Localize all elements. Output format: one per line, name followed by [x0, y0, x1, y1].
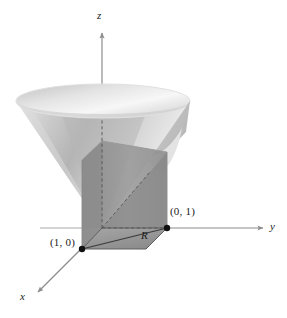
cone-region-diagram [0, 0, 287, 318]
dot-point-1-0 [79, 246, 85, 252]
axis-label-z: z [97, 9, 101, 21]
point-label-0-1: (0, 1) [170, 205, 195, 217]
dot-point-0-1 [164, 225, 170, 231]
region-label-R: R [141, 229, 148, 241]
axis-label-y: y [270, 220, 275, 232]
figure-canvas: z y x (1, 0) (0, 1) R [0, 0, 287, 318]
axis-label-x: x [20, 290, 25, 302]
point-label-1-0: (1, 0) [50, 236, 75, 248]
